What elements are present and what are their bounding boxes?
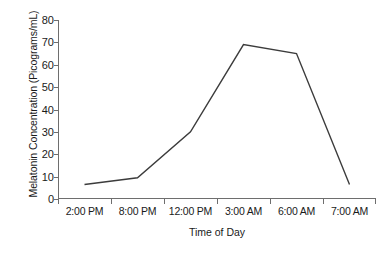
y-tick-mark (54, 110, 58, 111)
x-tick-mark (217, 199, 218, 204)
y-tick-label: 70 (2, 37, 54, 48)
x-tick-mark (164, 199, 165, 204)
y-tick-mark (54, 20, 58, 21)
y-tick-label: 60 (2, 59, 54, 70)
y-tick-label: 30 (2, 126, 54, 137)
x-tick-mark (270, 199, 271, 204)
y-axis-tick-labels: 01020304050607080 (0, 0, 54, 256)
data-series-line (58, 20, 376, 199)
x-tick-label: 2:00 PM (66, 205, 104, 217)
y-tick-mark (54, 177, 58, 178)
x-tick-label: 12:00 PM (169, 205, 212, 217)
x-tick-mark (111, 199, 112, 204)
y-tick-label: 10 (2, 171, 54, 182)
y-tick-label: 80 (2, 15, 54, 26)
x-tick-mark (58, 199, 59, 204)
melatonin-line-chart: Melatonin Concentration (Picograms/mL) 0… (0, 0, 388, 256)
x-tick-label: 8:00 PM (119, 205, 157, 217)
plot-area (58, 20, 376, 199)
x-tick-mark (375, 199, 376, 204)
y-tick-label: 40 (2, 104, 54, 115)
y-tick-mark (54, 65, 58, 66)
y-tick-mark (54, 87, 58, 88)
y-tick-label: 0 (2, 194, 54, 205)
x-tick-label: 7:00 AM (331, 205, 368, 217)
y-tick-label: 50 (2, 82, 54, 93)
x-tick-mark (323, 199, 324, 204)
y-tick-label: 20 (2, 149, 54, 160)
x-tick-label: 6:00 AM (278, 205, 315, 217)
y-tick-mark (54, 154, 58, 155)
y-tick-mark (54, 42, 58, 43)
x-axis-tick-labels: 2:00 PM8:00 PM12:00 PM3:00 AM6:00 AM7:00… (58, 205, 376, 221)
x-axis-title: Time of Day (58, 226, 376, 238)
y-tick-mark (54, 132, 58, 133)
x-tick-label: 3:00 AM (225, 205, 262, 217)
